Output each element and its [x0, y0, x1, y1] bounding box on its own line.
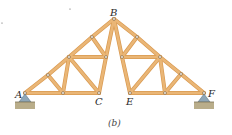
truss-member: [69, 37, 92, 57]
label-e: E: [125, 96, 134, 107]
pin-joint-l4: [105, 56, 108, 59]
label-b: B: [109, 7, 117, 18]
truss-members: [25, 19, 204, 93]
label-c: C: [95, 96, 103, 107]
truss-member: [99, 57, 106, 93]
pin-joint-c: [98, 92, 101, 95]
label-a: A: [14, 89, 22, 100]
truss-member: [181, 74, 204, 93]
pin-joint-l1: [47, 74, 50, 77]
figure-caption: (b): [108, 118, 121, 128]
speck: [1, 22, 2, 23]
truss-member: [25, 75, 48, 93]
truss-member: [130, 57, 160, 93]
truss-member: [92, 37, 106, 57]
pin-joint-l3: [91, 36, 94, 39]
truss-diagram: A B C E F (b): [0, 0, 232, 135]
truss-member: [165, 74, 181, 93]
truss-member: [122, 37, 137, 57]
pin-joint-r1: [136, 36, 139, 39]
pin-joint-r3: [180, 73, 183, 76]
pin-joint-r4: [121, 56, 124, 59]
pin-joint-b: [113, 18, 116, 21]
truss-member: [48, 75, 63, 93]
pin-joint-lb: [62, 92, 65, 95]
pin-joint-l2: [68, 56, 71, 59]
pin-joint-e: [129, 92, 132, 95]
speck: [69, 8, 70, 9]
label-f: F: [207, 88, 216, 99]
pin-joint-rb: [164, 92, 167, 95]
truss-member: [69, 57, 99, 93]
truss-member: [122, 57, 130, 93]
truss-member: [137, 37, 160, 57]
pin-joint-r2: [159, 56, 162, 59]
